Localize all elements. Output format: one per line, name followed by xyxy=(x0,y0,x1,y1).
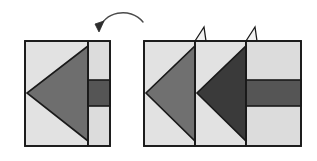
transformation-diagram xyxy=(0,0,317,161)
right-dark-band xyxy=(246,80,301,106)
diagram-root: Geometric transformation diagram A squar… xyxy=(0,0,317,161)
left-dark-band xyxy=(88,80,110,106)
right-figure-group xyxy=(144,27,301,146)
left-figure-group xyxy=(25,41,110,146)
